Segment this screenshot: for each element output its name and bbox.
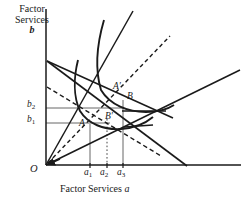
y-tick-b1-sub: 1	[32, 118, 36, 126]
isocost-lines	[47, 61, 187, 166]
isocost-steep	[47, 61, 187, 166]
y-tick-b2-sub: 2	[32, 103, 36, 111]
figure-container: Factor Services b Factor Services a O b2…	[0, 0, 248, 200]
origin-label: O	[30, 163, 38, 174]
x-tick-label-a2: a2	[100, 168, 108, 179]
x-tick-a3-sub: 3	[122, 171, 126, 179]
y-axis-title-variable: b	[6, 25, 58, 36]
x-axis-title-variable: a	[124, 183, 129, 194]
x-tick-label-a1: a1	[84, 168, 92, 179]
point-label-A: A	[79, 119, 85, 129]
y-tick-label-b2: b2	[27, 100, 35, 111]
y-tick-label-b1: b1	[27, 115, 35, 126]
x-tick-label-a3: a3	[117, 168, 125, 179]
point-label-A-prime: A′	[113, 82, 121, 92]
x-axis-title: Factor Services a	[60, 184, 129, 195]
outer-isoquant-curve	[97, 20, 174, 112]
x-axis-title-text: Factor Services	[60, 183, 122, 194]
isocost-flat	[47, 61, 173, 118]
x-tick-a1-sub: 1	[89, 171, 93, 179]
y-axis-title-line2: Services	[15, 14, 49, 25]
x-tick-a2-sub: 2	[105, 171, 109, 179]
y-axis-title-line1: Factor	[19, 3, 45, 14]
point-label-B: B	[127, 92, 133, 102]
y-axis-title: Factor Services b	[6, 4, 58, 36]
point-label-B-prime: B′	[105, 112, 113, 122]
